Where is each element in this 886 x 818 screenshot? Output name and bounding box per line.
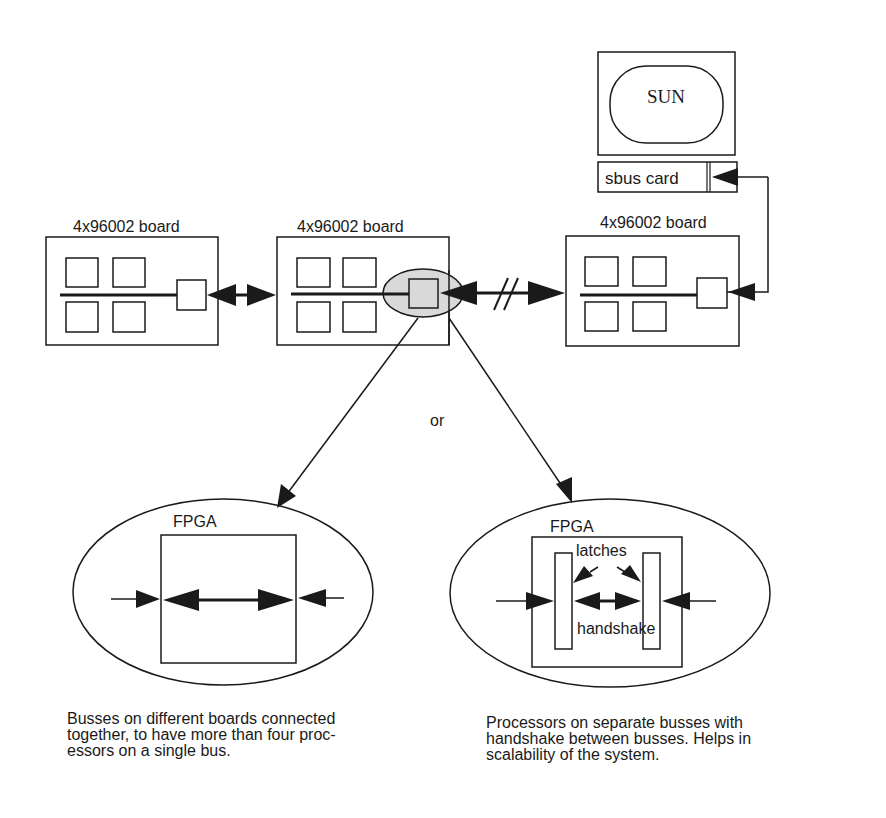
branch-arrows: or: [277, 318, 572, 508]
fpga-label: FPGA: [173, 513, 217, 530]
caption-line: scalability of the system.: [486, 747, 751, 763]
caption-line: Busses on different boards connected: [67, 711, 336, 727]
arrow-head-icon: [621, 565, 641, 582]
processor-chip: [633, 302, 666, 331]
processor-chip: [343, 302, 376, 332]
fpga-option-bridge: FPGA: [73, 499, 373, 685]
arrow-head-icon: [258, 589, 294, 611]
arrow-head-icon: [728, 283, 755, 301]
arrow-head-icon: [247, 284, 276, 306]
sbus-card-label: sbus card: [605, 169, 679, 188]
board-3: 4x96002 board: [566, 214, 739, 346]
board-label: 4x96002 board: [600, 214, 707, 231]
caption-line: essors on a single bus.: [67, 743, 336, 759]
arrow-head-icon: [615, 592, 641, 610]
board-1: 4x96002 board: [46, 218, 218, 345]
fpga-label: FPGA: [550, 518, 594, 535]
bus-connector: [697, 278, 727, 308]
sun-workstation: SUN sbus card: [598, 52, 737, 192]
processor-chip: [113, 258, 145, 287]
processor-chip: [66, 258, 98, 287]
processor-chip: [633, 257, 666, 286]
arrow-head-icon: [662, 592, 690, 610]
processor-chip: [585, 302, 618, 331]
processor-chip: [297, 302, 330, 332]
processor-chip: [113, 302, 145, 332]
processor-chip: [297, 258, 330, 287]
caption-handshake: Processors on separate busses with hands…: [486, 715, 751, 763]
arrow-head-icon: [277, 484, 296, 508]
board-2: 4x96002 board: [277, 218, 463, 345]
latches-label: latches: [576, 542, 627, 559]
arrow-head-icon: [298, 589, 326, 607]
arrow-head-icon: [574, 592, 600, 610]
caption-line: handshake between busses. Helps in: [486, 731, 751, 747]
arrow-head-icon: [207, 284, 236, 306]
fpga-option-handshake: FPGA latches handshake: [450, 499, 770, 687]
branch-label: or: [430, 412, 445, 429]
arrow-head-icon: [528, 281, 565, 305]
arrow-head-icon: [163, 589, 199, 611]
arrow-head-icon: [526, 592, 554, 610]
processor-chip: [585, 257, 618, 286]
processor-chip: [343, 258, 376, 287]
bus-connector: [177, 280, 206, 310]
processor-chip: [66, 302, 98, 332]
arrow-head-icon: [136, 590, 160, 608]
board-label: 4x96002 board: [73, 218, 180, 235]
bus-connector: [409, 279, 438, 308]
latch-left: [555, 553, 572, 649]
caption-line: Processors on separate busses with: [486, 715, 751, 731]
caption-line: together, to have more than four proc-: [67, 727, 336, 743]
diagram-canvas: SUN sbus card 4x96002 board 4x96002 boar…: [0, 0, 886, 818]
arrow-head-icon: [573, 566, 593, 583]
monitor-label: SUN: [647, 86, 685, 107]
caption-bridge: Busses on different boards connected tog…: [67, 711, 336, 759]
handshake-label: handshake: [577, 620, 655, 637]
board-label: 4x96002 board: [297, 218, 404, 235]
arrow-head-icon: [712, 168, 738, 186]
